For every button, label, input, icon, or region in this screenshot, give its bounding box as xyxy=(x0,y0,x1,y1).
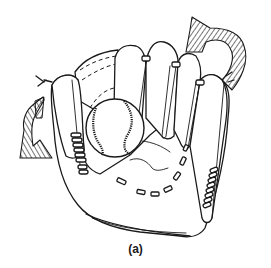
figure-caption: (a) xyxy=(0,242,271,256)
lace-tie-left xyxy=(36,76,52,86)
glove-figure: (a) xyxy=(0,0,271,268)
lace-knot xyxy=(142,56,150,61)
lace-knot xyxy=(196,80,204,85)
left-rotation-arrow xyxy=(20,97,52,158)
baseball xyxy=(86,99,144,157)
lace-knot xyxy=(172,62,180,67)
glove-illustration xyxy=(0,0,271,268)
